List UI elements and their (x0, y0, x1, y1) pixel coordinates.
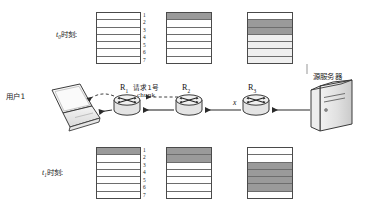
arrow-r1-to-client (99, 110, 112, 112)
laptop-icon (52, 84, 100, 131)
diagram-canvas: t0时刻: 1234567 t1时刻: 1234567 用户1 R1 R2 R3… (0, 0, 379, 212)
router1-icon (114, 95, 140, 115)
server-icon (311, 80, 352, 131)
router3-icon (243, 95, 269, 115)
router2-icon (176, 95, 202, 115)
arrow-request-r1-to-client (88, 94, 114, 100)
network-artwork (0, 0, 379, 212)
